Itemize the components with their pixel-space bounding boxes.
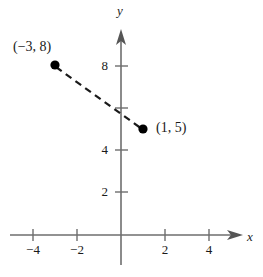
data-point-label-1: (−3, 8) [13, 40, 51, 54]
x-tick-label-2: 2 [153, 243, 177, 256]
y-tick-label-8: 8 [84, 59, 108, 72]
x-tick-label-minus4: −4 [21, 243, 45, 256]
data-point-marker-1 [50, 60, 59, 69]
x-tick-label-4: 4 [197, 243, 221, 256]
y-tick-label-4: 4 [84, 143, 108, 156]
y-axis-label: y [117, 4, 123, 17]
data-point-marker-2 [138, 124, 147, 133]
x-tick-label-minus2: −2 [65, 243, 89, 256]
y-tick-label-2: 2 [84, 185, 108, 198]
graph-figure: y x 8 4 2 −4 −2 2 4 (−3, 8) (1, 5) [0, 0, 263, 277]
x-axis-label: x [247, 230, 253, 243]
dashed-segment [56, 67, 142, 129]
data-point-label-2: (1, 5) [156, 121, 186, 135]
